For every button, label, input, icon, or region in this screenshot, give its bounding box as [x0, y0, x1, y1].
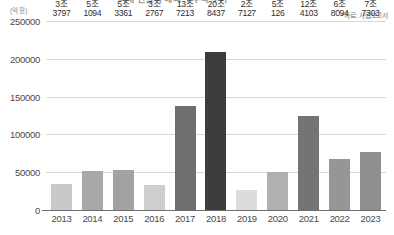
y-tick-label-250000: 250000 [10, 16, 40, 27]
bar-value-label-2015: 5조3361 [114, 0, 132, 19]
x-label-2023: 2023 [355, 213, 386, 231]
bar-value-label-2013: 3조3797 [52, 0, 70, 19]
x-label-2018: 2018 [201, 213, 232, 231]
bar-slot-2019[interactable]: 2조7127 [231, 21, 262, 210]
bar-value-label-2020: 5조126 [271, 0, 284, 19]
x-label-2016: 2016 [139, 213, 170, 231]
bar-2022[interactable] [329, 159, 350, 210]
bar-slot-2021[interactable]: 12조4103 [293, 21, 324, 210]
bar-slot-2014[interactable]: 5조1094 [77, 21, 108, 210]
y-tick-label-150000: 150000 [10, 91, 40, 102]
bar-slot-2023[interactable]: 7조7303 [355, 21, 386, 210]
bar-slot-2022[interactable]: 6조8094 [324, 21, 355, 210]
x-axis-line [42, 210, 386, 211]
bar-slot-2017[interactable]: 13조7213 [170, 21, 201, 210]
bar-2014[interactable] [82, 171, 103, 210]
bar-2013[interactable] [51, 184, 72, 210]
bar-value-label-2023: 7조7303 [362, 0, 380, 19]
bar-value-label-2017: 13조7213 [176, 0, 194, 19]
x-label-2015: 2015 [108, 213, 139, 231]
bar-series: 3조37975조10945조33613조276713조721320조84372조… [46, 21, 386, 210]
x-label-2019: 2019 [231, 213, 262, 231]
bar-value-label-2019: 2조7127 [238, 0, 256, 19]
bar-2016[interactable] [144, 185, 165, 210]
x-label-2017: 2017 [170, 213, 201, 231]
bar-value-label-2021: 12조4103 [300, 0, 318, 19]
y-tick-label-200000: 200000 [10, 53, 40, 64]
bar-value-label-2014: 5조1094 [83, 0, 101, 19]
bar-value-label-2018: 20조8437 [207, 0, 225, 19]
bar-2019[interactable] [236, 190, 257, 211]
bar-value-label-2022: 6조8094 [331, 0, 349, 19]
chart-title-clipped: 국내 건설사 해외 수주액 추이 [118, 0, 288, 5]
bar-slot-2016[interactable]: 3조2767 [139, 21, 170, 210]
bar-slot-2020[interactable]: 5조126 [262, 21, 293, 210]
bar-slot-2018[interactable]: 20조8437 [201, 21, 232, 210]
x-label-2022: 2022 [324, 213, 355, 231]
bar-slot-2015[interactable]: 5조3361 [108, 21, 139, 210]
bar-slot-2013[interactable]: 3조3797 [46, 21, 77, 210]
bar-2020[interactable] [267, 172, 288, 210]
y-tick-label-50000: 50000 [15, 167, 40, 178]
bar-2018[interactable] [205, 52, 226, 210]
plot-area: 050000100000150000200000250000 3조37975조1… [46, 21, 386, 210]
x-label-2014: 2014 [77, 213, 108, 231]
bar-2017[interactable] [175, 106, 196, 210]
chart-title-text: 국내 건설사 해외 수주액 추이 [118, 0, 288, 4]
y-tick-label-100000: 100000 [10, 129, 40, 140]
bar-value-label-2016: 3조2767 [145, 0, 163, 19]
x-axis-labels: 2013201420152016201720182019202020212022… [46, 213, 386, 231]
x-label-2021: 2021 [293, 213, 324, 231]
bar-2015[interactable] [113, 170, 134, 210]
x-label-2013: 2013 [46, 213, 77, 231]
x-label-2020: 2020 [262, 213, 293, 231]
y-tick-label-0: 0 [35, 205, 40, 216]
y-axis-unit-label: (억 원) [10, 5, 27, 15]
bar-2021[interactable] [298, 116, 319, 210]
chart-root: 국내 건설사 해외 수주액 추이 (억 원) *자료: 사업보고서 050000… [0, 0, 394, 235]
bar-2023[interactable] [360, 152, 381, 210]
